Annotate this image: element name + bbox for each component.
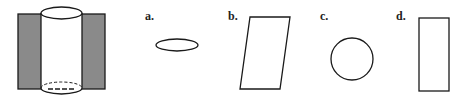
option-d-label: d.	[396, 9, 406, 24]
option-b-parallelogram[interactable]	[240, 17, 290, 89]
option-c-label: c.	[320, 9, 328, 24]
option-c-circle[interactable]	[331, 38, 373, 80]
cylinder-figure	[18, 7, 105, 94]
cylinder-body	[41, 13, 82, 88]
cylinder-bottom-front	[41, 88, 82, 94]
option-d-rectangle[interactable]	[419, 18, 449, 91]
option-b-label: b.	[228, 9, 238, 24]
option-a-label: a.	[145, 9, 154, 24]
cylinder-top-ellipse	[41, 7, 82, 19]
option-a-ellipse[interactable]	[156, 39, 198, 51]
